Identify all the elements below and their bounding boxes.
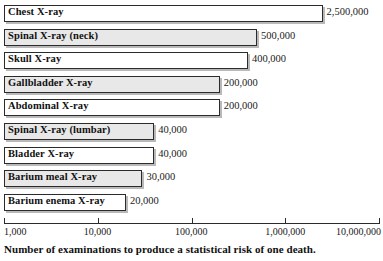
- x-axis-tick: [285, 218, 286, 224]
- x-axis: 1,00010,000100,0001,000,00010,000,000: [0, 216, 383, 240]
- x-axis-tick-label: 10,000,000: [336, 226, 381, 237]
- bar-value-label: 40,000: [158, 121, 187, 138]
- bar-value-label: 200,000: [224, 74, 258, 91]
- bar-value-label: 20,000: [130, 192, 159, 209]
- bar-category-label: Bladder X-ray: [4, 145, 74, 162]
- bar-row: Spinal X-ray (lumbar)40,000: [0, 121, 383, 145]
- bar-category-label: Gallbladder X-ray: [4, 74, 93, 91]
- bar-row: Abdominal X-ray200,000: [0, 97, 383, 121]
- bar-row: Chest X-ray2,500,000: [0, 3, 383, 27]
- bar-category-label: Skull X-ray: [4, 50, 61, 67]
- bar-row: Bladder X-ray40,000: [0, 145, 383, 169]
- bar-value-label: 2,500,000: [327, 3, 369, 20]
- bar-row: Barium meal X-ray30,000: [0, 168, 383, 192]
- bar-category-label: Spinal X-ray (lumbar): [4, 121, 110, 138]
- bar-value-label: 200,000: [224, 97, 258, 114]
- bar-row: Skull X-ray400,000: [0, 50, 383, 74]
- plot-area: Chest X-ray2,500,000Spinal X-ray (neck)5…: [0, 0, 383, 216]
- x-axis-tick-label: 10,000: [84, 226, 112, 237]
- x-axis-tick: [192, 218, 193, 224]
- x-axis-tick-label: 1,000: [4, 226, 27, 237]
- bar-row: Gallbladder X-ray200,000: [0, 74, 383, 98]
- bar-chart: Chest X-ray2,500,000Spinal X-ray (neck)5…: [0, 0, 383, 261]
- bar-value-label: 500,000: [261, 27, 295, 44]
- x-axis-tick-label: 100,000: [175, 226, 208, 237]
- x-axis-tick: [98, 218, 99, 224]
- bar-row: Barium enema X-ray20,000: [0, 192, 383, 216]
- bar-value-label: 400,000: [252, 50, 286, 67]
- bar-category-label: Barium meal X-ray: [4, 168, 97, 185]
- bar-value-label: 40,000: [158, 145, 187, 162]
- bar-category-label: Abdominal X-ray: [4, 97, 89, 114]
- x-axis-tick: [379, 218, 380, 224]
- bar-row: Spinal X-ray (neck)500,000: [0, 27, 383, 51]
- chart-caption: Number of examinations to produce a stat…: [4, 243, 316, 255]
- bar-category-label: Chest X-ray: [4, 3, 64, 20]
- x-axis-tick-label: 1,000,000: [265, 226, 305, 237]
- bar-value-label: 30,000: [146, 168, 175, 185]
- x-axis-tick: [4, 218, 5, 224]
- bar-category-label: Barium enema X-ray: [4, 192, 105, 209]
- bar-category-label: Spinal X-ray (neck): [4, 27, 98, 44]
